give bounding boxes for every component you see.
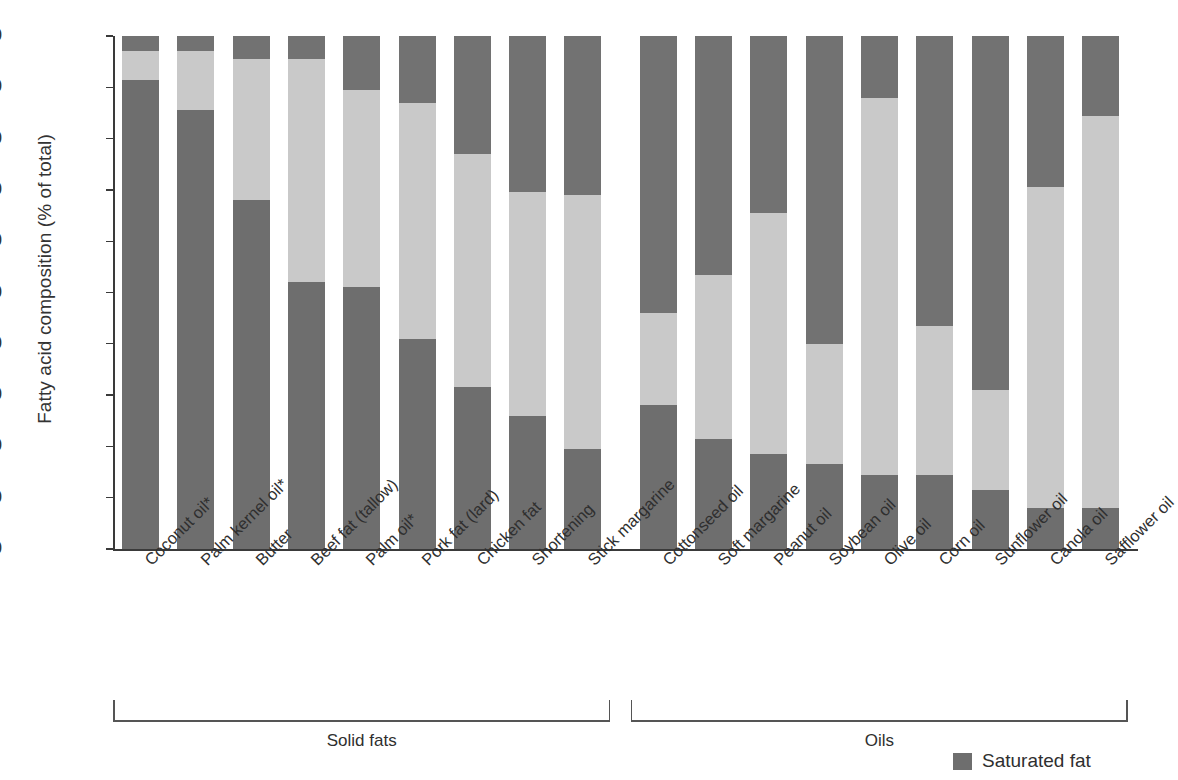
segment-monounsaturated xyxy=(750,213,787,454)
bar-sunflower-oil xyxy=(972,36,1009,549)
y-tick-0 xyxy=(106,548,113,549)
segment-polyunsaturated xyxy=(861,36,898,98)
bracket-solid-fats xyxy=(113,700,610,722)
segment-monounsaturated xyxy=(122,51,159,79)
segment-polyunsaturated xyxy=(233,36,270,59)
y-tick-label-40: 40 xyxy=(0,332,2,354)
y-tick-80 xyxy=(106,138,113,139)
segment-polyunsaturated xyxy=(343,36,380,90)
segment-monounsaturated xyxy=(972,390,1009,490)
y-tick-label-90: 90 xyxy=(0,75,2,97)
bar-pork-fat-lard xyxy=(399,36,436,549)
bracket-oils xyxy=(631,700,1128,722)
segment-polyunsaturated xyxy=(1082,36,1119,116)
segment-polyunsaturated xyxy=(454,36,491,154)
segment-polyunsaturated xyxy=(122,36,159,51)
segment-polyunsaturated xyxy=(806,36,843,344)
segment-monounsaturated xyxy=(1082,116,1119,508)
segment-monounsaturated xyxy=(916,326,953,475)
segment-monounsaturated xyxy=(1027,187,1064,508)
segment-monounsaturated xyxy=(640,313,677,405)
bar-palm-oil xyxy=(343,36,380,549)
segment-monounsaturated xyxy=(564,195,601,449)
y-tick-70 xyxy=(106,189,113,190)
bar-peanut-oil xyxy=(750,36,787,549)
bar-soybean-oil xyxy=(806,36,843,549)
segment-polyunsaturated xyxy=(288,36,325,59)
group-label-oils: Oils xyxy=(631,731,1128,751)
y-axis-line xyxy=(113,36,115,549)
bar-stick-margarine xyxy=(564,36,601,549)
plot-area xyxy=(113,36,1138,549)
bar-beef-fat-tallow xyxy=(288,36,325,549)
segment-monounsaturated xyxy=(288,59,325,282)
segment-polyunsaturated xyxy=(916,36,953,326)
bar-safflower-oil xyxy=(1082,36,1119,549)
legend: Saturated fat xyxy=(953,750,1091,772)
segment-monounsaturated xyxy=(861,98,898,475)
y-tick-label-10: 10 xyxy=(0,486,2,508)
y-tick-label-60: 60 xyxy=(0,229,2,251)
bar-canola-oil xyxy=(1027,36,1064,549)
bar-cottonseed-oil xyxy=(640,36,677,549)
y-tick-label-50: 50 xyxy=(0,281,2,303)
group-label-solid-fats: Solid fats xyxy=(113,731,610,751)
segment-monounsaturated xyxy=(695,275,732,439)
y-tick-label-80: 80 xyxy=(0,127,2,149)
segment-saturated xyxy=(122,80,159,549)
y-tick-20 xyxy=(106,446,113,447)
segment-monounsaturated xyxy=(343,90,380,288)
legend-label-saturated-fat: Saturated fat xyxy=(982,750,1091,772)
y-tick-40 xyxy=(106,343,113,344)
segment-saturated xyxy=(177,110,214,549)
segment-polyunsaturated xyxy=(399,36,436,103)
y-tick-100 xyxy=(106,35,113,36)
bar-corn-oil xyxy=(916,36,953,549)
bar-coconut-oil xyxy=(122,36,159,549)
y-axis-title: Fatty acid composition (% of total) xyxy=(34,19,56,539)
y-tick-90 xyxy=(106,87,113,88)
segment-monounsaturated xyxy=(509,192,546,415)
y-tick-label-0: 0 xyxy=(0,537,2,559)
bar-olive-oil xyxy=(861,36,898,549)
segment-saturated xyxy=(640,405,677,549)
y-tick-label-20: 20 xyxy=(0,434,2,456)
segment-polyunsaturated xyxy=(564,36,601,195)
bar-chicken-fat xyxy=(454,36,491,549)
segment-monounsaturated xyxy=(454,154,491,387)
segment-polyunsaturated xyxy=(640,36,677,313)
segment-monounsaturated xyxy=(177,51,214,110)
segment-monounsaturated xyxy=(399,103,436,339)
bar-soft-margarine xyxy=(695,36,732,549)
segment-polyunsaturated xyxy=(177,36,214,51)
segment-monounsaturated xyxy=(233,59,270,200)
y-tick-label-100: 100 xyxy=(0,24,2,46)
y-tick-label-70: 70 xyxy=(0,178,2,200)
segment-polyunsaturated xyxy=(509,36,546,192)
legend-swatch-saturated-fat xyxy=(953,753,972,770)
bar-palm-kernel-oil xyxy=(177,36,214,549)
segment-polyunsaturated xyxy=(972,36,1009,390)
segment-polyunsaturated xyxy=(750,36,787,213)
y-tick-60 xyxy=(106,241,113,242)
y-tick-30 xyxy=(106,394,113,395)
bar-butter xyxy=(233,36,270,549)
segment-monounsaturated xyxy=(806,344,843,465)
y-tick-50 xyxy=(106,292,113,293)
bar-shortening xyxy=(509,36,546,549)
y-tick-label-30: 30 xyxy=(0,383,2,405)
segment-polyunsaturated xyxy=(695,36,732,275)
y-tick-10 xyxy=(106,497,113,498)
segment-polyunsaturated xyxy=(1027,36,1064,187)
segment-saturated xyxy=(288,282,325,549)
